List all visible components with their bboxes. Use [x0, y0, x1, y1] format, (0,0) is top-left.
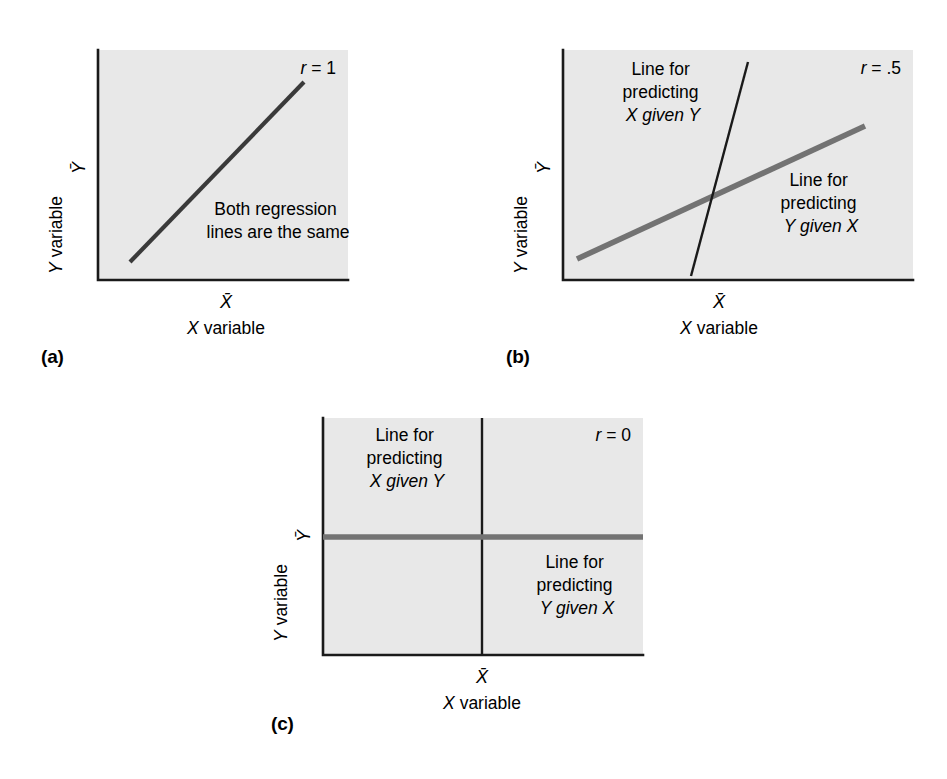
panel-c: Y variable Ȳ r = 0 Line for predicting …: [265, 408, 665, 708]
panel-b-x-axis-label-rest: variable: [692, 318, 758, 338]
panel-a-annot-line-2: lines are the same: [207, 222, 350, 242]
panel-b-annotation-predict-x-given-y: Line for predicting X given Y: [623, 59, 704, 125]
panel-b-annot2-line-1: Line for: [789, 170, 848, 190]
panel-c-annot1-line-3: X given Y: [369, 471, 446, 491]
panel-a-y-axis-label: Y variable: [46, 196, 66, 274]
panel-a-x-axis-label: X variable: [186, 318, 265, 338]
panel-b-label: (b): [506, 346, 530, 368]
panel-c-y-axis-label-rest: variable: [271, 564, 291, 630]
panel-b-annotation-predict-y-given-x: Line for predicting Y given X: [781, 170, 862, 236]
panel-b-annot1-line-3: X given Y: [625, 105, 702, 125]
panel-c-annot2-line-1: Line for: [545, 552, 604, 572]
panel-c-y-axis-label: Y variable: [271, 564, 291, 642]
panel-c-r-label: r = 0: [595, 425, 631, 445]
panel-c-x-axis-label-rest: variable: [455, 693, 521, 713]
panel-b-y-axis-label: Y variable: [511, 196, 531, 274]
panel-a-y-axis-label-rest: variable: [46, 196, 66, 262]
panel-b-annot2-line-2: predicting: [781, 193, 857, 213]
panel-b-y-mean-tick: Ȳ: [534, 160, 554, 174]
panel-c-annotation-predict-y-given-x: Line for predicting Y given X: [537, 552, 618, 618]
panel-b-annot1-line-1: Line for: [631, 59, 690, 79]
panel-c-r-value: = 0: [601, 425, 631, 445]
panel-a-x-mean-tick: X̄: [219, 292, 233, 312]
panel-a: Y variable Ȳ r = 1 Both regression line…: [40, 40, 410, 340]
panel-b-r-label: r = .5: [861, 58, 901, 78]
panel-c-y-mean-tick: Ȳ: [294, 528, 314, 542]
panel-c-annot1-line-1: Line for: [375, 425, 434, 445]
panel-a-label: (a): [41, 346, 64, 368]
panel-a-r-label: r = 1: [300, 58, 336, 78]
panel-b-plot-area: [563, 50, 913, 280]
panel-b-annot2-line-3: Y given X: [784, 216, 860, 236]
panel-a-r-value: = 1: [306, 58, 336, 78]
panel-b-annot1-line-2: predicting: [623, 82, 699, 102]
panel-b: Y variable Ȳ r = .5 Line for predicting…: [505, 40, 925, 340]
panel-b-x-mean-tick: X̄: [712, 292, 726, 312]
panel-b-x-axis-label: X variable: [679, 318, 758, 338]
panel-c-annot2-line-2: predicting: [537, 575, 613, 595]
figure-regression-lines: Y variable Ȳ r = 1 Both regression line…: [0, 0, 947, 779]
panel-a-y-mean-tick: Ȳ: [69, 160, 89, 174]
panel-c-x-mean-tick: X̄: [475, 667, 489, 687]
panel-a-annot-line-1: Both regression: [214, 199, 337, 219]
panel-c-x-axis-label: X variable: [442, 693, 521, 713]
panel-c-annot1-line-2: predicting: [367, 448, 443, 468]
panel-c-label: (c): [271, 713, 294, 735]
panel-c-annot2-line-3: Y given X: [540, 598, 616, 618]
panel-c-annotation-predict-x-given-y: Line for predicting X given Y: [367, 425, 448, 491]
panel-b-y-axis-label-rest: variable: [511, 196, 531, 262]
panel-a-x-axis-label-rest: variable: [199, 318, 265, 338]
panel-b-r-value: = .5: [866, 58, 901, 78]
